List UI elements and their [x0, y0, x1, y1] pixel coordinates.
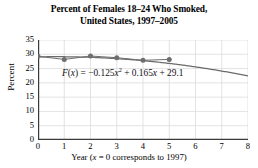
y-axis-tick-label: 10 [10, 106, 34, 115]
x-axis-tick-label: 7 [214, 141, 230, 151]
data-point [114, 55, 119, 60]
chart-figure: Percent of Females 18–24 Who Smoked, Uni… [0, 0, 258, 168]
regression-equation-annotation: F(x) = −0.125x2 + 0.165x + 29.1 [62, 66, 183, 78]
x-axis-tick-label: 2 [83, 141, 99, 151]
x-axis-title-suffix: = 0 corresponds to 1997) [97, 152, 187, 162]
chart-title-line-2: United States, 1997–2005 [0, 16, 258, 28]
x-axis-tick-label: 1 [56, 141, 72, 151]
data-point [62, 57, 67, 62]
x-axis-tick-label: 0 [30, 141, 46, 151]
data-point [141, 58, 146, 63]
x-axis-title-prefix: Year ( [71, 152, 92, 162]
y-axis-title: Percent [6, 49, 16, 105]
x-axis-tick-label: 3 [109, 141, 125, 151]
data-point [167, 57, 172, 62]
chart-title-line-1: Percent of Females 18–24 Who Smoked, [0, 4, 258, 16]
data-point [88, 54, 93, 59]
y-axis-tick-label: 35 [10, 35, 34, 44]
x-axis-tick-label: 8 [240, 141, 256, 151]
x-axis-tick-label: 5 [161, 141, 177, 151]
x-axis-tick-label: 4 [135, 141, 151, 151]
chart-title: Percent of Females 18–24 Who Smoked, Uni… [0, 4, 258, 27]
plot-svg [38, 40, 248, 140]
plot-area [38, 40, 248, 140]
y-axis-tick-label: 5 [10, 121, 34, 130]
equation-function-name: F [62, 68, 68, 78]
x-axis-tick-label: 6 [188, 141, 204, 151]
x-axis-title: Year (x = 0 corresponds to 1997) [0, 152, 258, 162]
